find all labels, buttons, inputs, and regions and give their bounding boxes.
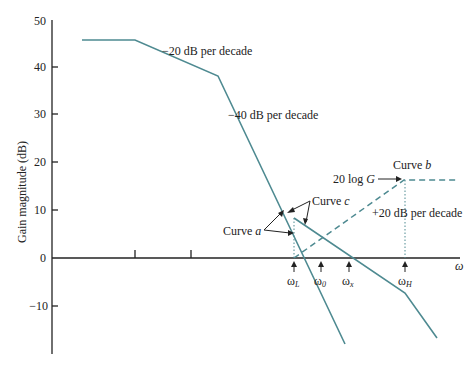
curve-c-label: Curve c [312,194,350,208]
ytick-50: 50 [34,14,46,28]
ytick-0: 0 [40,251,46,265]
y-ticks [52,67,191,306]
curve-a-arrow-1 [264,213,281,230]
y-axis-label: Gain magnitude (dB) [15,141,29,243]
omega-l-marker: ωL [287,261,300,289]
svg-text:ω0: ω0 [314,274,326,289]
ytick-30: 30 [34,107,46,121]
slope-minus20-label: −20 dB per decade [162,44,252,58]
ytick-minus10: −10 [29,299,48,313]
omega-x-marker: ωx [342,261,354,289]
slope-minus40-label: −40 dB per decade [228,108,318,122]
ytick-40: 40 [34,60,46,74]
slope-plus20-label: +20 dB per decade [372,206,462,220]
bode-diagram: 50 40 30 20 10 0 −10 Gain magnitude (dB)… [0,0,471,370]
omega-h-marker: ωH [398,261,413,289]
curve-a-line [82,40,345,344]
ytick-20: 20 [34,155,46,169]
svg-text:ωL: ωL [287,274,300,289]
log-gain-arrowhead [396,176,402,182]
ytick-10: 10 [34,203,46,217]
curve-b-label: Curve b [393,158,431,172]
curve-a-arrow-2 [264,230,290,233]
log-gain-label: 20 log G [333,172,375,186]
curve-a-label: Curve a [223,224,261,238]
svg-text:ωH: ωH [398,274,413,289]
x-axis-label: ω [455,259,463,273]
omega-0-marker: ω0 [314,261,326,289]
svg-text:ωx: ωx [342,274,354,289]
